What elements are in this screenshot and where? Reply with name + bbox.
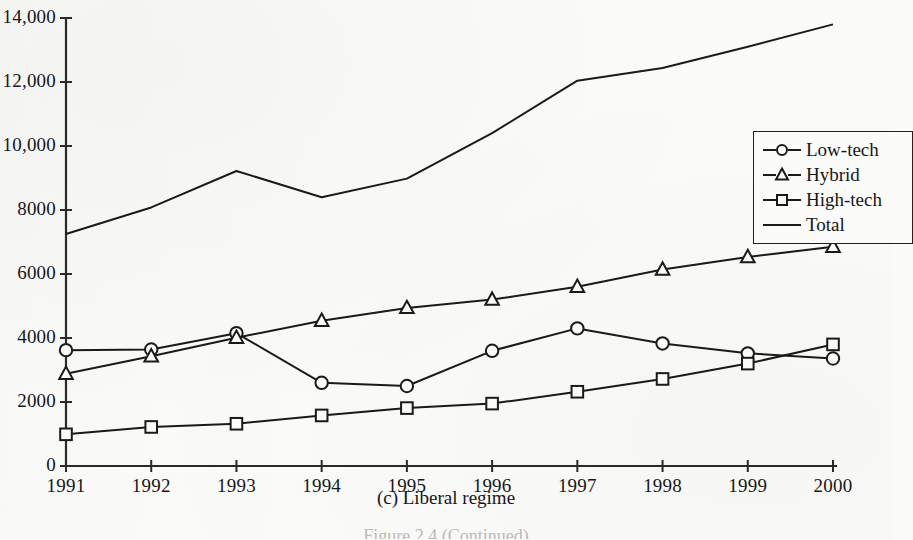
y-tick-label: 4000 [0,326,56,348]
y-tick-label: 0 [0,454,56,476]
y-tick-label: 10,000 [0,134,56,156]
y-tick-label: 14,000 [0,6,56,28]
series-layer [59,24,840,440]
axis-layer [60,18,837,472]
series-high-tech [60,339,839,441]
series-line [66,344,833,434]
series-line [66,247,833,374]
circle-marker-icon [315,377,327,389]
legend-label: Low-tech [806,139,879,161]
square-marker-icon [316,410,328,422]
figure-caption: (c) Liberal regime [0,487,892,509]
square-marker-icon [827,339,839,351]
circle-marker-icon [60,344,72,356]
y-tick-label: 2000 [0,390,56,412]
circle-marker-icon [827,352,839,364]
square-marker-icon [231,418,243,430]
series-low-tech [60,322,839,392]
square-marker-icon [145,421,157,433]
square-marker-icon [761,191,803,209]
legend-item-hybrid: Hybrid [754,162,912,187]
legend-label: High-tech [806,189,882,211]
circle-marker-icon [571,322,583,334]
series-total [66,24,833,234]
legend-label: Hybrid [806,164,860,186]
chart-legend: Low-techHybridHigh-techTotal [753,131,913,244]
circle-marker-icon [761,141,803,159]
line-marker-icon [761,216,803,234]
circle-marker-icon [486,345,498,357]
y-tick-label: 6000 [0,262,56,284]
series-line [66,24,833,234]
square-marker-icon [486,398,498,410]
y-tick-label: 8000 [0,198,56,220]
square-marker-icon [60,429,72,441]
legend-label: Total [806,214,845,236]
square-marker-icon [742,358,754,370]
triangle-marker-icon [761,166,803,184]
y-tick-label: 12,000 [0,70,56,92]
legend-item-total: Total [754,212,912,237]
square-marker-icon [401,402,413,414]
figure-number-note: Figure 2.4 (Continued) [0,526,892,539]
square-marker-icon [572,386,584,398]
circle-marker-icon [401,380,413,392]
series-hybrid [59,240,840,379]
circle-marker-icon [656,337,668,349]
square-marker-icon [657,373,669,385]
legend-item-high-tech: High-tech [754,187,912,212]
legend-item-low-tech: Low-tech [754,137,912,162]
series-line [66,328,833,386]
